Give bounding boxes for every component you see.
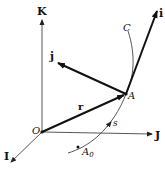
- label-j-axis: J: [154, 129, 160, 142]
- point-o: [40, 130, 43, 133]
- label-r: r: [78, 101, 84, 112]
- label-a: A: [127, 90, 135, 101]
- label-c: C: [123, 22, 131, 33]
- i-axis: [11, 132, 42, 162]
- label-i: i: [159, 7, 163, 20]
- label-k: K: [37, 5, 47, 18]
- point-a0: [77, 146, 80, 149]
- label-o: O: [32, 125, 40, 136]
- label-s: s: [113, 118, 118, 128]
- label-i-axis: I: [4, 150, 9, 163]
- s-direction-arrow: [107, 122, 111, 127]
- label-a0: A0: [81, 146, 94, 159]
- vector-diagram: K J I O r A j i C s A0: [0, 0, 165, 169]
- label-j: j: [49, 50, 54, 63]
- vector-j: [58, 63, 126, 94]
- j-axis: [42, 132, 152, 134]
